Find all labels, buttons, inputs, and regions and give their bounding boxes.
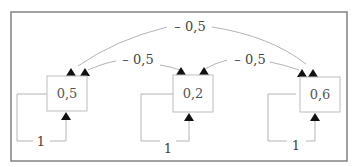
self-loop-weight: 1 [292, 138, 300, 153]
arrowhead-icon [308, 69, 318, 77]
node-n2: 0,2 [173, 75, 213, 112]
edge-weight-n2-n3: – 0,5 [234, 52, 265, 67]
node-n1: 0,5 [47, 76, 87, 111]
self-loop-weight: 1 [164, 141, 172, 156]
edge-n2-n1: – 0,5 [88, 52, 180, 70]
self-loop-weight: 1 [37, 134, 45, 149]
arrowhead-icon [310, 113, 320, 121]
arrowhead-icon [176, 67, 186, 75]
arrowhead-icon [66, 68, 76, 76]
arrowhead-icon [80, 68, 90, 76]
arrowhead-icon [199, 67, 209, 75]
node-value: 0,2 [183, 86, 204, 101]
arrowhead-icon [61, 112, 71, 120]
edge-n2-n3: – 0,5 [203, 52, 299, 70]
edge-n3-n1: – 0,5 [78, 19, 306, 66]
arrowhead-icon [184, 113, 194, 121]
node-value: 0,5 [57, 86, 78, 101]
network-diagram: – 0,5 – 0,5 – 0,5 0,5 1 0,2 1 [0, 0, 357, 167]
edge-weight-n2-n1: – 0,5 [122, 52, 153, 67]
node-n3: 0,6 [300, 77, 340, 112]
edge-weight-n3-n1: – 0,5 [174, 19, 205, 34]
node-value: 0,6 [310, 87, 331, 102]
